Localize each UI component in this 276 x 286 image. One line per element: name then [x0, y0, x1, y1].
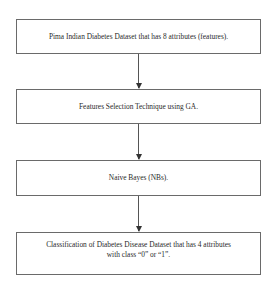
arrow-down-icon	[138, 124, 139, 159]
classification-output-label: Classification of Diabetes Disease Datas…	[46, 240, 231, 260]
naive-bayes-box: Naive Bayes (NBs).	[16, 160, 261, 196]
arrow-down-icon	[138, 196, 139, 231]
classification-label-line1: Classification of Diabetes Disease Datas…	[46, 240, 231, 250]
feature-selection-box: Features Selection Technique using GA.	[16, 89, 261, 124]
feature-selection-label: Features Selection Technique using GA.	[79, 102, 198, 112]
naive-bayes-label: Naive Bayes (NBs).	[109, 173, 168, 183]
arrow-down-icon	[138, 54, 139, 88]
dataset-input-label: Pima Indian Diabetes Dataset that has 8 …	[49, 32, 228, 42]
classification-label-line2: with class “0” or “1”.	[46, 250, 231, 260]
dataset-input-box: Pima Indian Diabetes Dataset that has 8 …	[16, 19, 261, 54]
classification-output-box: Classification of Diabetes Disease Datas…	[16, 232, 261, 275]
